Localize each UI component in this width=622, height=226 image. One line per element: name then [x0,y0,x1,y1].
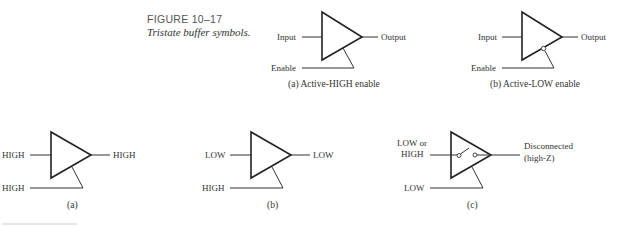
enable-value: LOW [404,183,425,193]
cropped-caption-fragment [2,223,77,225]
buffer-triangle-icon [251,132,291,178]
switch-contact-icon [457,154,461,158]
input-label: Input [277,32,296,42]
figure-number: FIGURE 10–17 [147,13,222,25]
enable-value: HIGH [2,183,25,193]
output-state-line2: (high-Z) [524,153,555,163]
buffer-symbol-active-high: Input Output Enable (a) Active-HIGH enab… [271,12,407,90]
enable-value: HIGH [202,183,225,193]
caption-active-low: (b) Active-LOW enable [490,79,580,90]
buffer-triangle-icon [522,12,562,60]
caption-b: (b) [267,200,278,211]
input-value: LOW [205,150,226,160]
buffer-example-a: HIGH HIGH HIGH (a) [2,132,136,211]
caption-active-high: (a) Active-HIGH enable [288,79,380,90]
input-label: Input [478,32,497,42]
caption-a: (a) [67,200,78,211]
enable-label: Enable [271,63,296,73]
buffer-symbol-active-low: Input Output Enable (b) Active-LOW enabl… [471,12,607,90]
input-value-line1: LOW or [397,138,427,148]
output-state-line1: Disconnected [524,141,573,151]
buffer-triangle-icon [51,132,91,178]
input-value-line2: HIGH [401,149,424,159]
caption-c: (c) [467,200,478,211]
buffer-example-b: LOW LOW HIGH (b) [202,132,334,211]
output-value: LOW [313,150,334,160]
switch-contact-icon [473,153,477,157]
figure-title: Tristate buffer symbols. [147,26,251,38]
output-label: Output [581,32,607,42]
tristate-buffer-figure: FIGURE 10–17 Tristate buffer symbols. In… [0,0,622,226]
inversion-bubble-icon [541,46,545,50]
buffer-example-c: LOW or HIGH Disconnected (high-Z) LOW (c… [397,132,573,211]
input-value: HIGH [2,150,25,160]
enable-label: Enable [471,63,496,73]
output-value: HIGH [113,150,136,160]
buffer-triangle-icon [322,12,362,60]
output-label: Output [381,32,407,42]
